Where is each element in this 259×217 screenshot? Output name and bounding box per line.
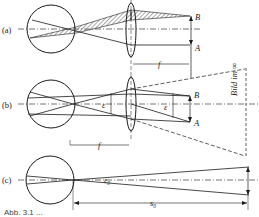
point-b-label: B bbox=[195, 12, 200, 22]
ray bbox=[27, 176, 73, 180]
virtual-ray bbox=[131, 69, 245, 89]
panel-b-label: (b) bbox=[2, 100, 12, 110]
panel-a: (a) B A f bbox=[2, 0, 201, 78]
magnifier-diagram: (a) B A f (b) bbox=[0, 0, 259, 217]
panel-c-label: (c) bbox=[2, 175, 12, 185]
panel-c: (c) ε₀ s₀ bbox=[2, 156, 259, 210]
light-bundle-right bbox=[131, 10, 190, 20]
point-a-label: A bbox=[194, 43, 201, 53]
arrow-down-icon bbox=[189, 40, 193, 45]
arrow-up-icon bbox=[188, 96, 192, 101]
ray bbox=[27, 180, 73, 184]
panel-b: (b) ε ε B A Bild im ∞ bbox=[2, 63, 259, 157]
arrow-down-icon bbox=[246, 190, 250, 195]
point-a-label: A bbox=[193, 118, 200, 128]
point-b-label: B bbox=[194, 90, 199, 100]
epsilon-label-right: ε bbox=[164, 102, 168, 112]
s0-label: s₀ bbox=[150, 198, 156, 208]
light-bundle bbox=[30, 10, 131, 38]
virtual-ray bbox=[131, 119, 245, 156]
image-at-infinity-label: Bild im ∞ bbox=[229, 63, 239, 96]
arrow-up-icon bbox=[189, 16, 193, 21]
panel-a-label: (a) bbox=[2, 25, 12, 35]
ray bbox=[73, 167, 249, 180]
arrow-up-icon bbox=[246, 167, 250, 172]
arrow-right-icon bbox=[242, 201, 247, 205]
epsilon-label-left: ε bbox=[102, 100, 106, 110]
arrow-left-icon bbox=[74, 201, 79, 205]
figure-caption-partial: Abb. 3.1 ... bbox=[4, 208, 43, 217]
epsilon0-label: ε₀ bbox=[104, 175, 110, 185]
ray bbox=[73, 180, 249, 195]
